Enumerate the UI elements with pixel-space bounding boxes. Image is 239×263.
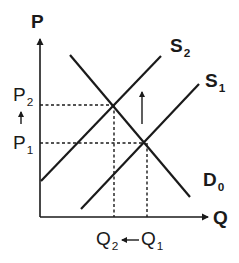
supply-curve-s2 (41, 56, 161, 181)
quantity-axis-label: Q (213, 208, 228, 227)
supply-s1-label-main: S (205, 70, 218, 91)
supply-s1-label: S1 (205, 71, 225, 94)
price-p2-label-sub: 2 (27, 95, 34, 108)
supply-demand-diagram (0, 0, 239, 263)
demand-curve-d0 (70, 55, 190, 197)
demand-d0-label-sub: 0 (218, 180, 225, 193)
demand-d0-label: D0 (203, 170, 224, 193)
price-p1-label: P1 (13, 133, 33, 156)
price-axis-label: P (31, 12, 44, 31)
quantity-q1-label-sub: 1 (157, 239, 164, 252)
supply-s2-label-sub: 2 (184, 46, 191, 59)
price-p1-label-main: P (13, 132, 26, 153)
quantity-q2-label: Q2 (96, 229, 118, 252)
supply-curve-s1 (81, 84, 199, 209)
price-p1-label-sub: 1 (27, 143, 34, 156)
quantity-q2-label-main: Q (96, 228, 111, 249)
price-p2-label: P2 (13, 85, 33, 108)
supply-s1-label-sub: 1 (219, 81, 226, 94)
quantity-q1-label-main: Q (141, 228, 156, 249)
supply-s2-label-main: S (170, 35, 183, 56)
price-p2-label-main: P (13, 84, 26, 105)
quantity-q1-label: Q1 (141, 229, 163, 252)
quantity-q2-label-sub: 2 (112, 239, 119, 252)
demand-d0-label-main: D (203, 169, 217, 190)
supply-s2-label: S2 (170, 36, 190, 59)
